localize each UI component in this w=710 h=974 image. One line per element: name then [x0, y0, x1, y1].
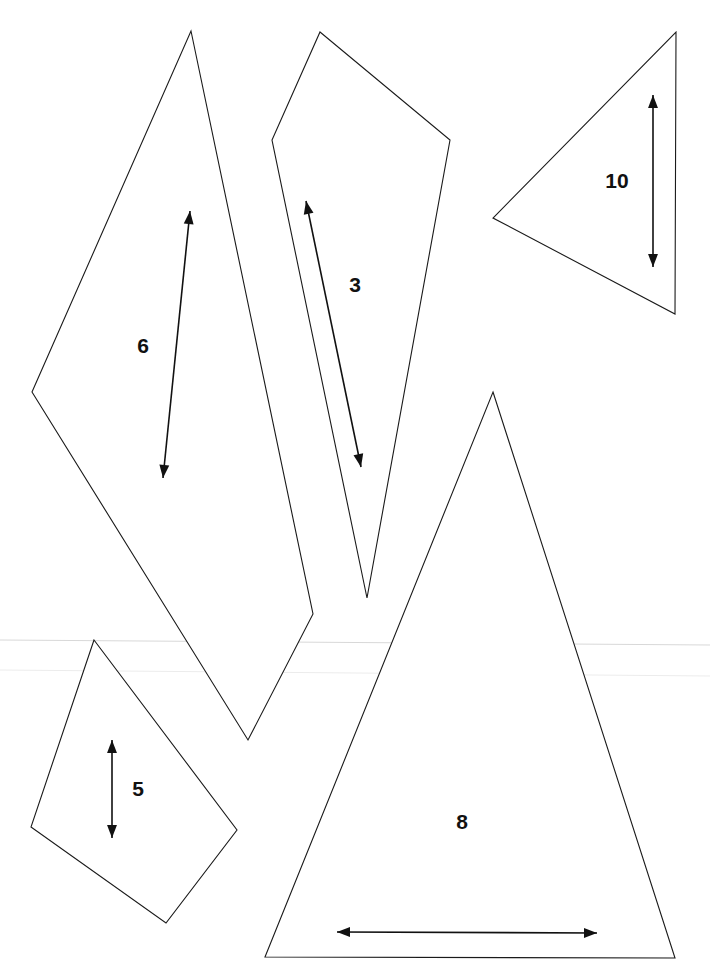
- scan-line: [0, 640, 710, 645]
- piece-number-label: 6: [137, 334, 149, 357]
- piece-10: 10: [493, 32, 676, 314]
- pattern-sheet: 631085: [0, 0, 710, 974]
- piece-number-label: 5: [132, 777, 144, 800]
- piece-number-label: 10: [605, 169, 628, 192]
- pattern-pieces: 631085: [31, 31, 676, 958]
- piece-3: 3: [272, 32, 450, 598]
- quadrilateral-outline: [272, 32, 450, 598]
- triangle-outline: [493, 32, 676, 314]
- piece-6: 6: [32, 31, 313, 740]
- piece-5: 5: [31, 640, 237, 923]
- piece-number-label: 8: [456, 810, 468, 833]
- piece-number-label: 3: [349, 273, 361, 296]
